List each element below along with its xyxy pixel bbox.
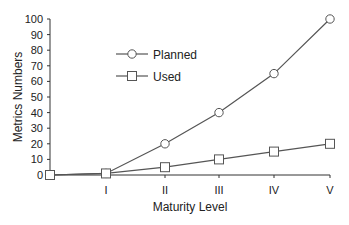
y-tick-label: 50 [31, 91, 43, 103]
x-tick-label: IV [269, 184, 280, 196]
square-marker-icon [215, 155, 224, 164]
y-tick-label: 10 [31, 153, 43, 165]
circle-marker-icon [270, 69, 278, 77]
legend: PlannedUsed [116, 48, 197, 84]
legend-label-planned: Planned [153, 48, 197, 62]
y-axis-label: Metrics Numbers [11, 52, 25, 143]
y-tick-label: 80 [31, 44, 43, 56]
line-chart: 0102030405060708090100IIIIIIIVV PlannedU… [0, 0, 349, 225]
y-tick-label: 100 [25, 13, 43, 25]
x-tick-label: V [326, 184, 334, 196]
legend-circle-icon [128, 50, 136, 58]
y-tick-label: 60 [31, 75, 43, 87]
x-axis-label: Maturity Level [153, 200, 228, 214]
y-tick-label: 20 [31, 138, 43, 150]
circle-marker-icon [161, 140, 169, 148]
y-tick-label: 70 [31, 60, 43, 72]
square-marker-icon [326, 139, 335, 148]
y-tick-label: 30 [31, 122, 43, 134]
circle-marker-icon [326, 15, 334, 23]
square-marker-icon [46, 171, 55, 180]
legend-label-used: Used [153, 70, 181, 84]
legend-square-icon [128, 72, 137, 81]
series-layer [46, 15, 335, 180]
axes: 0102030405060708090100IIIIIIIVV [25, 13, 335, 196]
x-tick-label: III [214, 184, 223, 196]
y-tick-label: 90 [31, 29, 43, 41]
x-tick-label: I [104, 184, 107, 196]
circle-marker-icon [215, 108, 223, 116]
series-line-used [50, 144, 330, 175]
square-marker-icon [102, 169, 111, 178]
square-marker-icon [270, 147, 279, 156]
y-tick-label: 0 [37, 169, 43, 181]
y-tick-label: 40 [31, 107, 43, 119]
square-marker-icon [161, 163, 170, 172]
x-tick-label: II [162, 184, 168, 196]
series-line-planned [50, 19, 330, 175]
